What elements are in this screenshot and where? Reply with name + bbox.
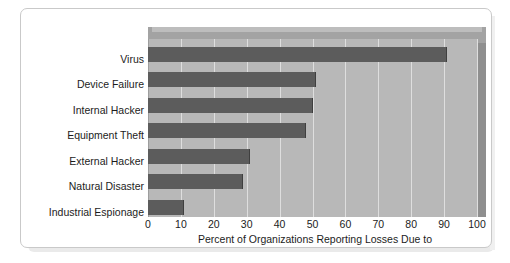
category-label: Natural Disaster <box>69 174 144 199</box>
category-label: External Hacker <box>69 149 144 174</box>
bar <box>148 98 313 113</box>
x-tick-label: 0 <box>145 218 151 230</box>
category-axis-labels: VirusDevice FailureInternal HackerEquipm… <box>43 43 144 221</box>
bar <box>148 200 184 215</box>
plot-3d-side-face <box>476 27 486 217</box>
x-axis-title: Percent of Organizations Reporting Losse… <box>148 233 482 245</box>
chart-figure: VirusDevice FailureInternal HackerEquipm… <box>0 0 510 263</box>
category-label: Equipment Theft <box>67 123 144 148</box>
x-tick-label: 30 <box>241 218 253 230</box>
x-axis-tick-labels: 0102030405060708090100 <box>148 218 488 234</box>
bar <box>148 123 306 138</box>
category-label: Industrial Espionage <box>49 200 144 225</box>
bar <box>148 174 243 189</box>
x-tick-label: 70 <box>372 218 384 230</box>
bar <box>148 149 250 164</box>
category-label: Internal Hacker <box>73 98 144 123</box>
x-tick-label: 40 <box>274 218 286 230</box>
plot-area <box>148 39 477 217</box>
bar <box>148 72 316 87</box>
x-tick-label: 100 <box>468 218 486 230</box>
category-label: Virus <box>120 47 144 72</box>
x-tick-label: 10 <box>175 218 187 230</box>
x-tick-label: 20 <box>208 218 220 230</box>
figure-frame: VirusDevice FailureInternal HackerEquipm… <box>20 8 492 248</box>
category-label: Device Failure <box>77 72 144 97</box>
x-tick-label: 80 <box>405 218 417 230</box>
x-tick-label: 60 <box>340 218 352 230</box>
x-tick-label: 90 <box>438 218 450 230</box>
bar-series <box>148 43 477 217</box>
x-tick-label: 50 <box>307 218 319 230</box>
plot-3d-top-highlight <box>152 27 482 32</box>
bar <box>148 47 447 62</box>
